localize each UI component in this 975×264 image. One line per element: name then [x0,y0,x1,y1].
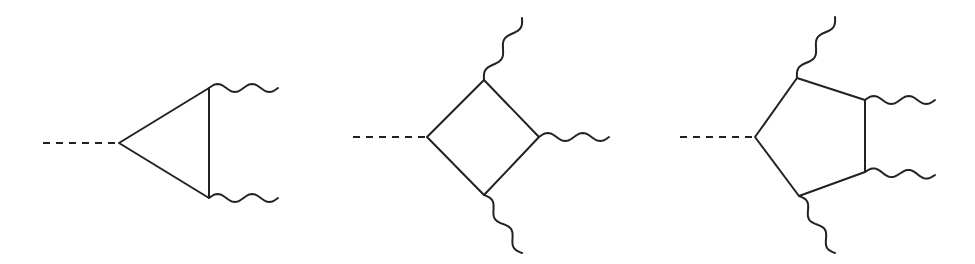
feynman-diagrams-figure [0,0,975,264]
photon-external-line [539,133,609,141]
fermion-loop [427,80,539,195]
photon-external-line [484,18,522,80]
photon-external-line [484,195,522,253]
photon-external-line [799,196,835,253]
fermion-loop [755,78,865,196]
diagram-canvas [0,0,975,264]
photon-external-line [865,168,935,178]
photon-external-line [865,96,935,104]
photon-external-line [797,17,835,78]
triangle-loop-diagram [43,84,278,202]
photon-external-line [209,194,278,202]
fermion-loop [119,88,209,198]
photon-external-line [209,84,278,92]
pentagon-loop-diagram [680,17,935,253]
box-loop-diagram [353,18,609,253]
